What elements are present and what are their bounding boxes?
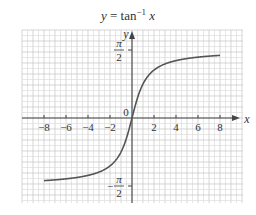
arctan-chart: y = tan−1 x −8−6−4−224680xyπ2−π2 xyxy=(0,0,256,215)
x-axis-arrow-icon xyxy=(232,115,240,121)
x-tick-label: −2 xyxy=(104,121,116,133)
title-var: x xyxy=(146,8,155,23)
title-sup: −1 xyxy=(136,7,146,17)
y-tick-denominator: 2 xyxy=(116,51,122,63)
x-tick-label: −8 xyxy=(38,121,50,133)
x-tick-label: 2 xyxy=(151,121,157,133)
chart-title: y = tan−1 x xyxy=(99,7,155,23)
svg-text:y = tan−1 x: y = tan−1 x xyxy=(99,7,155,23)
x-tick-label: 8 xyxy=(217,121,223,133)
y-tick-denominator: 2 xyxy=(116,187,122,199)
y-axis-arrow-icon xyxy=(129,31,135,39)
x-axis-label: x xyxy=(243,112,250,126)
y-tick-sign: − xyxy=(107,180,113,192)
x-tick-label: −6 xyxy=(60,121,72,133)
y-tick-numerator: π xyxy=(116,173,122,185)
x-tick-label: 6 xyxy=(195,121,201,133)
chart-svg: y = tan−1 x −8−6−4−224680xyπ2−π2 xyxy=(0,0,256,215)
x-tick-label: −4 xyxy=(82,121,94,133)
title-eq: = tan xyxy=(107,8,137,23)
y-tick-numerator: π xyxy=(116,37,122,49)
origin-label: 0 xyxy=(123,106,129,118)
x-tick-label: 4 xyxy=(173,121,179,133)
y-axis-label: y xyxy=(122,27,129,41)
